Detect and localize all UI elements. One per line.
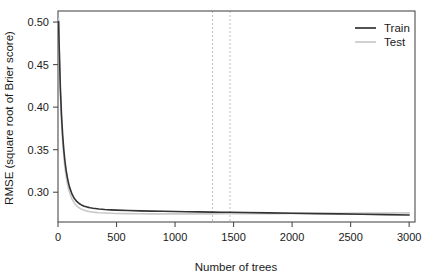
x-tick-label: 0 [55, 231, 61, 243]
y-tick-label: 0.35 [28, 144, 49, 156]
y-tick-label: 0.50 [28, 16, 49, 28]
legend-label-train: Train [384, 22, 410, 34]
x-tick-label: 3000 [397, 231, 421, 243]
x-axis-title: Number of trees [195, 261, 278, 273]
legend-label-test: Test [384, 36, 406, 48]
x-tick-label: 2000 [280, 231, 304, 243]
chart-figure: 050010001500200025003000 0.300.350.400.4… [0, 0, 428, 279]
x-tick-label: 500 [107, 231, 125, 243]
x-tick-label: 2500 [338, 231, 362, 243]
rmse-vs-trees-line-chart: 050010001500200025003000 0.300.350.400.4… [0, 0, 428, 279]
y-tick-label: 0.40 [28, 101, 49, 113]
y-tick-label: 0.45 [28, 59, 49, 71]
y-tick-label: 0.30 [28, 186, 49, 198]
x-tick-label: 1000 [163, 231, 187, 243]
x-tick-label: 1500 [221, 231, 245, 243]
y-axis-title: RMSE (square root of Brier score) [3, 31, 15, 205]
